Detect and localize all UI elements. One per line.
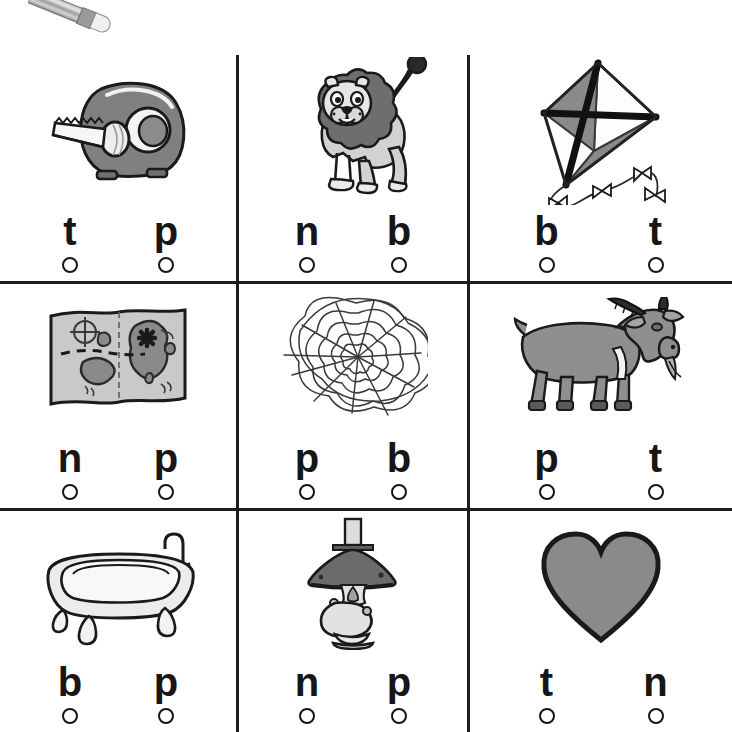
answer-choices: b t bbox=[470, 211, 732, 273]
answer-choice[interactable]: p bbox=[130, 662, 202, 724]
choice-letter: p bbox=[387, 662, 411, 702]
answer-choice[interactable]: p bbox=[511, 438, 583, 500]
choice-letter: t bbox=[649, 211, 662, 251]
answer-choices: n b bbox=[239, 211, 467, 273]
pencil-icon bbox=[28, 0, 158, 50]
answer-choice[interactable]: n bbox=[271, 662, 343, 724]
kite-picture bbox=[470, 55, 732, 205]
choice-letter: p bbox=[154, 438, 178, 478]
answer-choice[interactable]: b bbox=[511, 211, 583, 273]
choice-letter: n bbox=[295, 211, 319, 251]
answer-bubble[interactable] bbox=[539, 484, 555, 500]
choice-letter: p bbox=[534, 438, 558, 478]
heart-picture bbox=[470, 525, 732, 650]
answer-choice[interactable]: p bbox=[130, 438, 202, 500]
spider-web-picture bbox=[239, 292, 467, 422]
answer-bubble[interactable] bbox=[299, 257, 315, 273]
answer-choice[interactable]: b bbox=[34, 662, 106, 724]
worksheet-cell: t n bbox=[470, 511, 732, 732]
answer-choice[interactable]: p bbox=[271, 438, 343, 500]
choice-letter: b bbox=[387, 438, 411, 478]
choice-letter: p bbox=[154, 211, 178, 251]
answer-bubble[interactable] bbox=[648, 708, 664, 724]
answer-bubble[interactable] bbox=[299, 484, 315, 500]
worksheet-cell: t p bbox=[0, 55, 236, 281]
answer-choice[interactable]: t bbox=[34, 211, 106, 273]
answer-choice[interactable]: n bbox=[271, 211, 343, 273]
choice-letter: p bbox=[154, 662, 178, 702]
worksheet-cell: p t bbox=[470, 284, 732, 508]
answer-bubble[interactable] bbox=[158, 257, 174, 273]
bathtub-picture bbox=[0, 525, 236, 650]
worksheet-cell: b t bbox=[470, 55, 732, 281]
worksheet-cell: n p bbox=[239, 511, 467, 732]
answer-choice[interactable]: t bbox=[620, 211, 692, 273]
answer-bubble[interactable] bbox=[62, 257, 78, 273]
answer-choices: n p bbox=[239, 662, 467, 724]
goat-picture bbox=[470, 294, 732, 424]
oil-lamp-picture bbox=[239, 515, 467, 650]
answer-choice[interactable]: p bbox=[363, 662, 435, 724]
worksheet-cell: b p bbox=[0, 511, 236, 732]
answer-choices: p t bbox=[470, 438, 732, 500]
answer-choice[interactable]: t bbox=[511, 662, 583, 724]
answer-bubble[interactable] bbox=[62, 484, 78, 500]
answer-bubble[interactable] bbox=[158, 708, 174, 724]
answer-bubble[interactable] bbox=[62, 708, 78, 724]
choice-letter: n bbox=[58, 438, 82, 478]
choice-letter: b bbox=[534, 211, 558, 251]
choice-letter: t bbox=[540, 662, 553, 702]
choice-letter: t bbox=[649, 438, 662, 478]
answer-bubble[interactable] bbox=[299, 708, 315, 724]
tape-dispenser-picture bbox=[0, 63, 236, 198]
answer-bubble[interactable] bbox=[539, 708, 555, 724]
choice-letter: b bbox=[387, 211, 411, 251]
answer-choices: t p bbox=[0, 211, 236, 273]
answer-bubble[interactable] bbox=[648, 484, 664, 500]
answer-choice[interactable]: t bbox=[620, 438, 692, 500]
choice-letter: n bbox=[643, 662, 667, 702]
worksheet-cell: p b bbox=[239, 284, 467, 508]
answer-choice[interactable]: b bbox=[363, 211, 435, 273]
choice-letter: p bbox=[295, 438, 319, 478]
answer-choice[interactable]: b bbox=[363, 438, 435, 500]
answer-choice[interactable]: n bbox=[34, 438, 106, 500]
answer-bubble[interactable] bbox=[391, 257, 407, 273]
answer-choices: p b bbox=[239, 438, 467, 500]
choice-letter: n bbox=[295, 662, 319, 702]
answer-choices: b p bbox=[0, 662, 236, 724]
answer-choice[interactable]: n bbox=[620, 662, 692, 724]
answer-bubble[interactable] bbox=[648, 257, 664, 273]
lion-picture bbox=[239, 57, 467, 202]
answer-bubble[interactable] bbox=[391, 708, 407, 724]
worksheet-page: t p bbox=[0, 0, 732, 732]
worksheet-cell: n b bbox=[239, 55, 467, 281]
answer-bubble[interactable] bbox=[158, 484, 174, 500]
answer-choices: t n bbox=[470, 662, 732, 724]
answer-choice[interactable]: p bbox=[130, 211, 202, 273]
choice-letter: t bbox=[63, 211, 76, 251]
answer-bubble[interactable] bbox=[391, 484, 407, 500]
answer-bubble[interactable] bbox=[539, 257, 555, 273]
answer-choices: n p bbox=[0, 438, 236, 500]
choice-letter: b bbox=[58, 662, 82, 702]
map-picture bbox=[0, 296, 236, 421]
worksheet-cell: n p bbox=[0, 284, 236, 508]
